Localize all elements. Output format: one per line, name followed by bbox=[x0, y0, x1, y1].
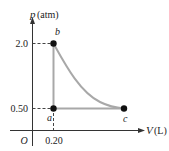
x-axis-unit: (L) bbox=[154, 125, 167, 137]
tick-label-p-low: 0.50 bbox=[11, 103, 29, 114]
x-axis-symbol: V bbox=[146, 124, 154, 136]
origin-label: O bbox=[20, 135, 27, 146]
point-a bbox=[50, 105, 56, 111]
y-axis-symbol: p bbox=[29, 8, 36, 20]
point-b bbox=[50, 40, 56, 46]
tick-label-p-high: 2.0 bbox=[16, 38, 29, 49]
point-c bbox=[121, 105, 127, 111]
path-b-to-c bbox=[54, 44, 125, 109]
pv-diagram: p (atm) V (L) 2.0 0.50 0.20 O a b c bbox=[0, 0, 169, 151]
tick-label-v-low: 0.20 bbox=[45, 135, 63, 146]
point-label-c: c bbox=[123, 113, 128, 124]
point-label-a: a bbox=[47, 112, 52, 123]
y-axis-unit: (atm) bbox=[37, 9, 59, 21]
point-label-b: b bbox=[55, 26, 60, 37]
x-axis-arrow-icon bbox=[138, 128, 145, 133]
